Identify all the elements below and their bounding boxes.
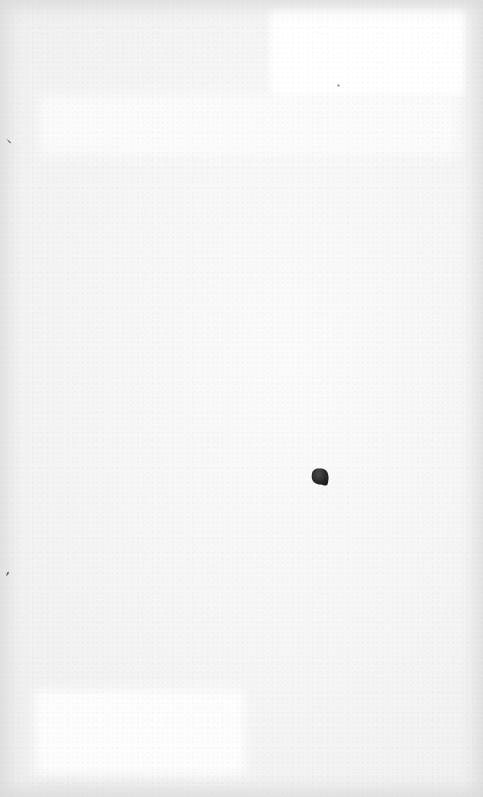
left-edge-mark-bottom (5, 571, 10, 577)
bright-patch-bottom (35, 690, 245, 775)
small-dot (337, 84, 340, 87)
left-edge-mark-top (6, 138, 12, 144)
bright-band (40, 95, 460, 155)
dark-pebble (309, 466, 331, 488)
bright-patch-top (270, 8, 465, 96)
paper-surface (0, 0, 483, 797)
